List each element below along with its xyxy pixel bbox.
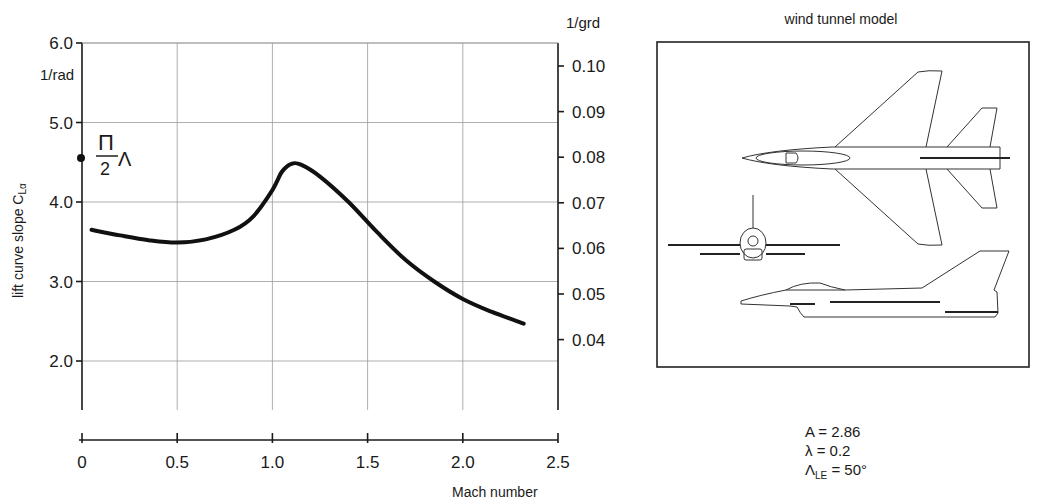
- front-view-drawing: [668, 195, 840, 260]
- sweep-number: = 50°: [827, 461, 867, 478]
- marker-dot: [77, 154, 85, 162]
- y-right-tick-label: 0.09: [572, 103, 605, 122]
- y-right-tick-label: 0.10: [572, 57, 605, 76]
- y-right-tick-label: 0.05: [572, 285, 605, 304]
- denominator-two: 2: [100, 159, 110, 179]
- x-tick-label: 0: [77, 453, 86, 472]
- y-right-unit: 1/grd: [566, 14, 600, 31]
- y-left-unit: 1/rad: [40, 66, 74, 83]
- y-axis-label: lift curve slope CLα: [10, 183, 28, 298]
- taper-ratio-value: λ = 0.2: [805, 441, 867, 460]
- x-tick-label: 1.5: [356, 453, 380, 472]
- side-view-drawing: [741, 251, 1009, 317]
- lift-curve-line: [92, 163, 524, 324]
- sweep-subscript: LE: [815, 470, 827, 481]
- x-tick-label: 2.0: [451, 453, 475, 472]
- top-view-drawing: [742, 71, 1010, 246]
- x-tick-label: 1.0: [261, 453, 285, 472]
- lambda-symbol: Λ: [118, 148, 132, 170]
- y-tick-label: 6.0: [49, 34, 73, 53]
- pi-over-2-annotation: Π 2 Λ: [77, 130, 132, 179]
- sweep-angle-value: ΛLE = 50°: [805, 460, 867, 485]
- aspect-ratio-value: A = 2.86: [805, 422, 867, 441]
- y-tick-label: 2.0: [49, 352, 73, 371]
- model-frame: [657, 42, 1029, 367]
- y-tick-label: 3.0: [49, 273, 73, 292]
- x-tick-label: 2.5: [546, 453, 570, 472]
- x-axis-label: Mach number: [452, 484, 538, 500]
- y-right-tick-label: 0.07: [572, 194, 605, 213]
- tick-labels: 6.05.04.03.02.000.51.01.52.02.50.100.090…: [49, 34, 605, 472]
- pi-symbol: Π: [98, 130, 114, 155]
- x-tick-label: 0.5: [165, 453, 189, 472]
- sweep-symbol: Λ: [805, 461, 815, 478]
- y-tick-label: 4.0: [49, 193, 73, 212]
- y-right-tick-label: 0.04: [572, 331, 605, 350]
- model-parameters: A = 2.86 λ = 0.2 ΛLE = 50°: [805, 422, 867, 485]
- axes: [76, 43, 564, 443]
- lift-curve-chart: 6.05.04.03.02.000.51.01.52.02.50.100.090…: [0, 0, 1039, 502]
- model-title: wind tunnel model: [784, 11, 898, 27]
- y-right-tick-label: 0.08: [572, 148, 605, 167]
- y-right-tick-label: 0.06: [572, 239, 605, 258]
- grid-lines: [82, 43, 558, 410]
- y-tick-label: 5.0: [49, 114, 73, 133]
